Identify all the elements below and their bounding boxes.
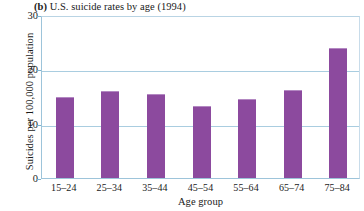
x-tick-label: 45–54	[175, 182, 227, 193]
x-tick-label: 35–44	[129, 182, 181, 193]
bar	[101, 91, 119, 178]
chart-title: (b) U.S. suicide rates by age (1994)	[34, 1, 186, 13]
y-tick-mark	[36, 179, 41, 180]
bar	[329, 48, 347, 178]
x-tick-label: 55–64	[220, 182, 272, 193]
x-tick-label: 75–84	[311, 182, 363, 193]
bar	[284, 90, 302, 178]
bar	[56, 97, 74, 178]
bar	[147, 94, 165, 178]
x-tick-label: 25–34	[83, 182, 135, 193]
x-axis-label: Age group	[41, 196, 360, 207]
y-tick-label: 10	[14, 120, 38, 130]
bar	[238, 99, 256, 178]
y-tick-label: 20	[14, 65, 38, 75]
bar	[193, 106, 211, 178]
y-axis-label: Suicides per 100,000 population	[24, 17, 35, 187]
plot-area	[41, 16, 360, 179]
chart-title-text: U.S. suicide rates by age (1994)	[47, 1, 186, 12]
bar-series	[42, 17, 359, 178]
y-tick-label: 0	[14, 174, 38, 184]
x-tick-label: 65–74	[266, 182, 318, 193]
y-tick-label: 30	[14, 11, 38, 21]
chart-figure: (b) U.S. suicide rates by age (1994) Sui…	[0, 0, 364, 211]
x-tick-label: 15–24	[38, 182, 90, 193]
